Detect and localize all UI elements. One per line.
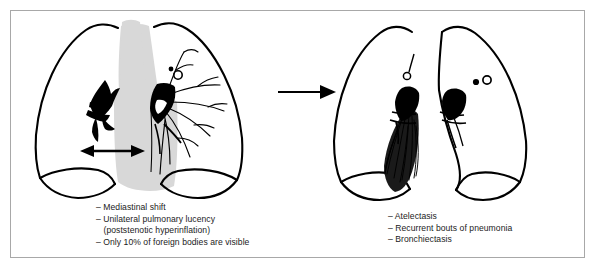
caption-line: – Unilateral pulmonary lucency	[96, 214, 249, 226]
caption-line: – Bronchiectasis	[388, 234, 512, 246]
caption-line: (poststenotic hyperinflation)	[96, 225, 249, 237]
caption-complications: – Atelectasis – Recurrent bouts of pneum…	[388, 211, 512, 246]
caption-line: – Atelectasis	[388, 211, 512, 223]
caption-line: – Mediastinal shift	[96, 202, 249, 214]
caption-line: – Recurrent bouts of pneumonia	[388, 223, 512, 235]
atelectasis-fan	[384, 109, 419, 192]
chest-diagram-complications	[330, 14, 542, 210]
nodular-opacities	[440, 76, 491, 148]
caption-line: – Only 10% of foreign bodies are visible	[96, 237, 249, 249]
figure-root: – Mediastinal shift – Unilateral pulmona…	[0, 0, 598, 269]
caption-acute-findings: – Mediastinal shift – Unilateral pulmona…	[96, 202, 249, 248]
chest-diagram-acute	[18, 14, 286, 210]
